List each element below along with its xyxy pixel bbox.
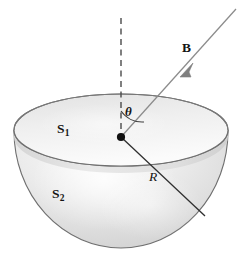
label-surface-s2: S2: [52, 187, 64, 201]
center-point-marker: [117, 133, 125, 141]
label-angle-theta: θ: [125, 105, 132, 118]
label-surface-s1-subscript: 1: [65, 128, 70, 138]
diagram-canvas: [0, 0, 242, 256]
label-radius-r: R: [149, 170, 157, 184]
label-surface-s1-base: S: [57, 121, 65, 136]
label-surface-s2-subscript: 2: [60, 193, 65, 203]
hemisphere-field-diagram: S1 S2 B R θ: [0, 0, 242, 256]
label-field-vector-b: B: [182, 41, 191, 55]
label-surface-s2-base: S: [52, 186, 60, 201]
label-surface-s1: S1: [57, 122, 69, 136]
